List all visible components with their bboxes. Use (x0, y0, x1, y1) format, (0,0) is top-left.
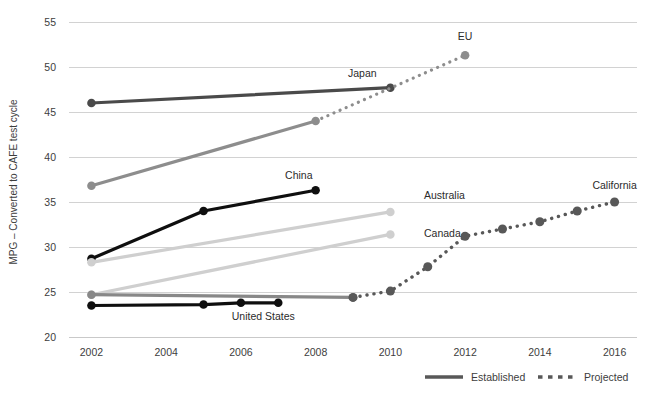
y-tick-label: 50 (44, 61, 56, 73)
x-tick-label: 2010 (379, 346, 403, 358)
series-label-united-states: United States (232, 310, 295, 322)
y-tick-label: 55 (44, 16, 56, 28)
x-tick-label: 2012 (453, 346, 477, 358)
legend-label-projected: Projected (584, 371, 629, 383)
data-point (87, 182, 96, 191)
series-line-japan (91, 88, 390, 103)
legend-label-established: Established (471, 371, 525, 383)
data-point (610, 197, 619, 206)
series-line-australia (91, 212, 390, 262)
data-point (311, 186, 320, 195)
data-point (87, 301, 96, 310)
data-point (461, 51, 470, 60)
line-chart: 2025303540455055 20022004200620082010201… (0, 0, 645, 399)
series-line-united-states (91, 303, 278, 306)
x-axis-ticks: 20022004200620082010201220142016 (80, 346, 627, 358)
data-point (573, 206, 582, 215)
y-tick-label: 40 (44, 151, 56, 163)
data-point (423, 262, 432, 271)
data-point (498, 224, 507, 233)
series-labels: JapanEUChinaAustraliaCanadaCaliforniaUni… (232, 30, 637, 322)
x-tick-label: 2006 (229, 346, 253, 358)
x-tick-label: 2008 (304, 346, 328, 358)
series-line-eu (91, 121, 315, 186)
data-point (87, 99, 96, 108)
data-point (237, 299, 246, 308)
series-label-eu: EU (458, 30, 473, 42)
data-point (461, 232, 470, 241)
data-point (199, 300, 208, 309)
chart-container: 2025303540455055 20022004200620082010201… (0, 0, 645, 399)
series-label-canada: Canada (424, 227, 461, 239)
y-tick-label: 45 (44, 106, 56, 118)
data-point (386, 230, 395, 239)
chart-legend: EstablishedProjected (425, 371, 629, 383)
x-tick-label: 2004 (154, 346, 178, 358)
y-tick-label: 35 (44, 196, 56, 208)
y-tick-label: 25 (44, 286, 56, 298)
y-axis-title: MPG – Converted to CAFE test cycle (8, 99, 19, 264)
x-tick-label: 2014 (528, 346, 552, 358)
data-point (386, 287, 395, 296)
y-tick-label: 20 (44, 331, 56, 343)
data-point (274, 299, 283, 308)
y-axis-ticks: 2025303540455055 (44, 16, 56, 343)
data-point (348, 293, 357, 302)
series-label-australia: Australia (424, 189, 465, 201)
series-line-california-projected (353, 202, 615, 297)
series-line-china (91, 190, 315, 258)
series-label-japan: Japan (348, 67, 377, 79)
data-point (535, 217, 544, 226)
data-point (386, 83, 395, 92)
series-line-canada (91, 234, 390, 294)
series-label-california: California (592, 179, 637, 191)
series-line-california (91, 295, 353, 298)
data-series (87, 51, 619, 310)
data-point (199, 207, 208, 216)
series-label-china: China (285, 169, 313, 181)
x-tick-label: 2002 (80, 346, 104, 358)
y-tick-label: 30 (44, 241, 56, 253)
data-point (87, 258, 96, 267)
data-point (87, 290, 96, 299)
data-point (386, 208, 395, 217)
x-tick-label: 2016 (603, 346, 627, 358)
